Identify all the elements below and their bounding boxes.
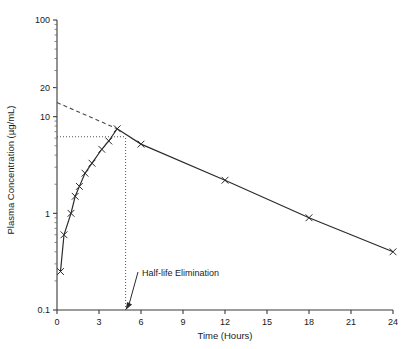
x-axis-title: Time (Hours) xyxy=(197,330,252,341)
chart-figure: 0.111020100 03691215182124 Time (Hours) … xyxy=(0,0,411,349)
x-tick-label: 9 xyxy=(180,317,185,327)
chart-background xyxy=(0,0,411,349)
x-tick-label: 24 xyxy=(388,317,398,327)
x-tick-label: 3 xyxy=(96,317,101,327)
y-tick-label: 0.1 xyxy=(37,305,50,315)
x-tick-label: 0 xyxy=(54,317,59,327)
y-tick-label: 1 xyxy=(45,209,50,219)
half-life-annotation-label: Half-life Elimination xyxy=(142,268,219,278)
x-tick-label: 12 xyxy=(220,317,230,327)
x-tick-label: 15 xyxy=(262,317,272,327)
x-tick-label: 6 xyxy=(138,317,143,327)
x-tick-label: 18 xyxy=(304,317,314,327)
y-axis-title: Plasma Concentration (µg/mL) xyxy=(5,105,16,234)
y-tick-label: 20 xyxy=(40,83,50,93)
plasma-concentration-chart: 0.111020100 03691215182124 Time (Hours) … xyxy=(0,0,411,349)
x-tick-label: 21 xyxy=(346,317,356,327)
y-tick-label: 100 xyxy=(35,15,50,25)
y-tick-label: 10 xyxy=(40,112,50,122)
